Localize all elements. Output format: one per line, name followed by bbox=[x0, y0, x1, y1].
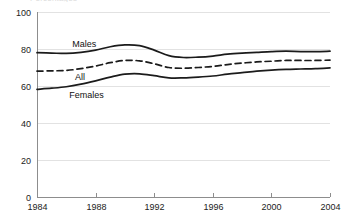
series-label-females: Females bbox=[69, 90, 104, 100]
y-tick-label-40: 40 bbox=[21, 119, 31, 129]
y-tick-label-80: 80 bbox=[21, 45, 31, 55]
chart-canvas: 020406080100 198419881992199620002004 Ma… bbox=[0, 0, 346, 222]
x-tick-label-1984: 1984 bbox=[27, 202, 47, 212]
x-tick-label-2004: 2004 bbox=[320, 202, 340, 212]
line-chart: 020406080100 198419881992199620002004 Ma… bbox=[0, 0, 346, 222]
x-tick-label-1992: 1992 bbox=[144, 202, 164, 212]
series-lines-group bbox=[37, 45, 330, 89]
chart-screenshot: Percentages 020406080100 198419881992199… bbox=[0, 0, 346, 222]
y-tick-label-60: 60 bbox=[21, 82, 31, 92]
x-tick-label-2000: 2000 bbox=[261, 202, 281, 212]
x-tick-label-1996: 1996 bbox=[203, 202, 223, 212]
series-label-males: Males bbox=[72, 39, 97, 49]
x-axis-labels-group: 198419881992199620002004 bbox=[27, 202, 340, 212]
y-axis-labels-group: 020406080100 bbox=[16, 8, 31, 203]
y-tick-label-20: 20 bbox=[21, 156, 31, 166]
x-tick-label-1988: 1988 bbox=[86, 202, 106, 212]
x-axis-ticks-group bbox=[38, 193, 331, 197]
series-label-all: All bbox=[75, 72, 85, 82]
y-tick-label-100: 100 bbox=[16, 8, 31, 18]
